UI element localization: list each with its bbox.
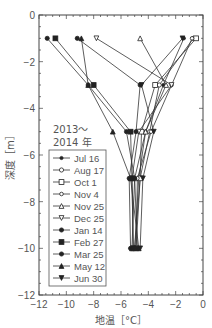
legend-title-line1: 2013～ [53, 124, 88, 135]
temperature-depth-chart: −12−10−8−6−4−200−2−4−6−8−10−12地温［°C］深度［m… [0, 0, 212, 328]
legend-label: Aug 17 [74, 165, 104, 176]
series-oct-1 [134, 36, 199, 251]
y-tick-label: 0 [29, 10, 35, 21]
x-tick-label: −2 [170, 299, 182, 310]
x-tick-label: 0 [200, 299, 206, 310]
y-tick-label: −8 [24, 197, 36, 208]
legend-label: May 12 [74, 261, 105, 272]
legend-label: Dec 25 [74, 213, 104, 224]
legend-label: Nov 25 [74, 201, 104, 212]
legend-label: Jan 14 [74, 225, 103, 236]
x-tick-label: −10 [58, 299, 75, 310]
y-tick-label: −6 [24, 150, 36, 161]
y-tick-label: −12 [18, 290, 35, 301]
legend-label: Feb 27 [74, 237, 104, 248]
legend-label: Mar 25 [74, 249, 104, 260]
legend-title-line2: 2014 年 [53, 136, 92, 148]
legend-label: Nov 4 [74, 189, 99, 200]
y-tick-label: −2 [24, 57, 36, 68]
x-tick-label: −4 [143, 299, 155, 310]
legend-label: Jun 30 [74, 273, 103, 284]
x-axis-label: 地温［°C］ [95, 314, 147, 326]
legend-label: Oct 1 [74, 177, 97, 188]
x-tick-label: −8 [88, 299, 100, 310]
legend: 2013～2014 年Jul 16Aug 17Oct 1Nov 4Nov 25D… [49, 124, 106, 286]
y-tick-label: −10 [18, 243, 35, 254]
y-tick-label: −4 [24, 103, 36, 114]
series-aug-17 [133, 36, 196, 250]
y-axis-label: 深度［m］ [4, 130, 16, 180]
legend-label: Jul 16 [74, 153, 99, 164]
x-tick-label: −6 [115, 299, 127, 310]
